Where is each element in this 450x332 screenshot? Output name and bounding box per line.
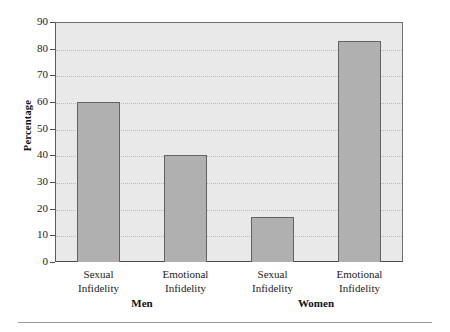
y-tick-label: 10 xyxy=(8,229,48,240)
group-label: Men xyxy=(55,297,229,309)
category-label-line: Infidelity xyxy=(142,282,229,296)
category-label-line: Sexual xyxy=(229,268,316,282)
y-tick-mark xyxy=(50,49,55,50)
category-label: EmotionalInfidelity xyxy=(142,268,229,295)
y-tick-label: 50 xyxy=(8,123,48,134)
y-tick-mark xyxy=(50,22,55,23)
category-label-line: Infidelity xyxy=(316,282,403,296)
bar xyxy=(251,217,294,262)
category-label-line: Infidelity xyxy=(229,282,316,296)
bar-chart-figure: Percentage 0102030405060708090 SexualInf… xyxy=(0,0,450,332)
category-label-line: Emotional xyxy=(142,268,229,282)
y-tick-mark xyxy=(50,209,55,210)
category-label-line: Sexual xyxy=(55,268,142,282)
y-tick-label: 90 xyxy=(8,16,48,27)
y-tick-label: 70 xyxy=(8,69,48,80)
bottom-divider xyxy=(18,322,432,323)
category-label: EmotionalInfidelity xyxy=(316,268,403,295)
y-tick-label: 80 xyxy=(8,43,48,54)
y-tick-mark xyxy=(50,182,55,183)
y-tick-label: 60 xyxy=(8,96,48,107)
category-label: SexualInfidelity xyxy=(229,268,316,295)
y-tick-mark xyxy=(50,102,55,103)
y-tick-mark xyxy=(50,262,55,263)
y-tick-label: 40 xyxy=(8,149,48,160)
y-tick-mark xyxy=(50,155,55,156)
y-tick-label: 30 xyxy=(8,176,48,187)
y-tick-label: 0 xyxy=(8,256,48,267)
y-tick-label: 20 xyxy=(8,203,48,214)
y-tick-mark xyxy=(50,75,55,76)
category-label-line: Emotional xyxy=(316,268,403,282)
bar xyxy=(77,102,120,262)
category-label: SexualInfidelity xyxy=(55,268,142,295)
y-tick-mark xyxy=(50,235,55,236)
y-tick-mark xyxy=(50,129,55,130)
bar xyxy=(164,155,207,262)
category-label-line: Infidelity xyxy=(55,282,142,296)
group-label: Women xyxy=(229,297,403,309)
bar xyxy=(338,41,381,262)
